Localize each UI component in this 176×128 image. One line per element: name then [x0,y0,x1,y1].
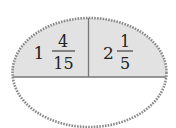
denominator-right: 5 [120,54,130,73]
numerator-right: 1 [120,32,130,51]
whole-right: 2 [103,43,114,63]
denominator-left: 15 [53,54,73,73]
ellipse-diagram: 1 4 15 2 1 5 [0,0,176,128]
empty-bottom-region [30,80,148,120]
whole-left: 1 [34,43,45,63]
numerator-left: 4 [58,32,68,51]
